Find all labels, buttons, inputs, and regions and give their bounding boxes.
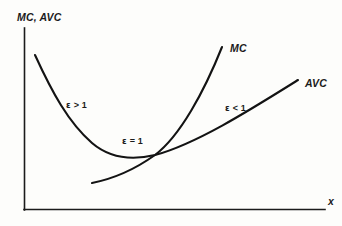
avc-curve-label: AVC	[305, 78, 327, 89]
y-axis-title: MC, AVC	[17, 12, 62, 23]
epsilon-relation: = 1	[127, 136, 143, 146]
annotation-elasticity-less-than-one: ε < 1	[225, 104, 246, 113]
cost-curve-figure: MC, AVC x MC AVC ε > 1 ε = 1 ε < 1	[0, 0, 342, 226]
epsilon-relation: < 1	[230, 103, 246, 113]
x-axis-title: x	[328, 196, 334, 207]
mc-curve-label: MC	[230, 43, 247, 54]
annotation-elasticity-greater-than-one: ε > 1	[66, 101, 87, 110]
annotation-elasticity-equals-one: ε = 1	[122, 137, 143, 146]
epsilon-relation: > 1	[71, 100, 87, 110]
mc-curve	[92, 47, 222, 183]
plot-area	[0, 0, 342, 226]
